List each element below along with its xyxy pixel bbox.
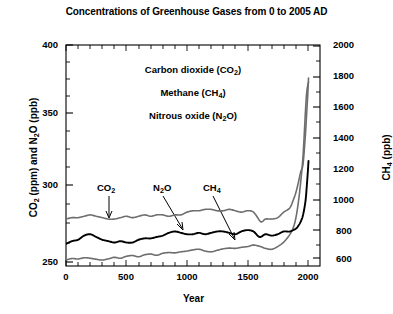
annotation-arrows — [106, 196, 235, 240]
top-axis-ticks — [66, 45, 308, 51]
y-axis-right-minor-ticks — [316, 61, 320, 245]
y-axis-left-minor-ticks — [66, 62, 70, 243]
x-axis-ticks — [66, 260, 308, 266]
chart-figure: Concentrations of Greenhouse Gases from … — [0, 0, 393, 314]
plot-canvas — [0, 0, 393, 314]
y-axis-right-major-ticks — [313, 46, 320, 258]
y-axis-left-major-ticks — [66, 45, 73, 262]
series-line-n2o — [66, 161, 309, 244]
series-line-co2 — [66, 78, 309, 222]
